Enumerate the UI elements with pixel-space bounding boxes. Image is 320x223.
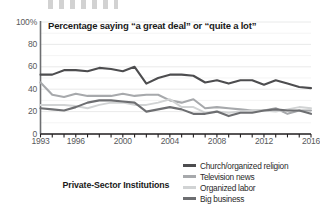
chart-caption: Private-Sector Institutions — [46, 180, 186, 190]
x-axis-tick-label: 2008 — [208, 136, 226, 146]
legend-label: Big business — [200, 194, 244, 204]
chart-title: Percentage saying “a great deal” or “qui… — [48, 20, 256, 31]
y-axis-tick-label: 80 — [3, 40, 37, 49]
legend-item[interactable]: Church/organized religion — [183, 160, 320, 171]
chart-figure: 100%806040200 19931996200020042008201220… — [0, 0, 320, 223]
y-axis-tick-label: 100% — [3, 18, 37, 27]
y-axis-tick-label: 20 — [3, 107, 37, 116]
legend-swatch-icon — [183, 186, 196, 188]
legend-label: Organized labor — [200, 183, 255, 193]
legend-label: Church/organized religion — [200, 161, 288, 171]
legend-item[interactable]: Organized labor — [183, 182, 320, 193]
x-axis-tick-label: 2004 — [161, 136, 179, 146]
legend-item[interactable]: Television news — [183, 171, 320, 182]
chart-legend: Church/organized religionTelevision news… — [183, 160, 320, 204]
x-axis-labels: 1993199620002004200820122016 — [0, 136, 320, 150]
legend-swatch-icon — [183, 197, 196, 199]
legend-swatch-icon — [183, 175, 196, 177]
legend-swatch-icon — [183, 164, 196, 166]
legend-label: Television news — [200, 172, 254, 182]
x-axis-tick-label: 1993 — [31, 136, 49, 146]
y-axis-tick-label: 40 — [3, 85, 37, 94]
x-axis-tick-label: 2012 — [255, 136, 273, 146]
y-axis-tick-label: 60 — [3, 62, 37, 71]
x-axis-tick-label: 2000 — [114, 136, 132, 146]
cropped-text-artifact — [48, 0, 118, 9]
y-axis-labels: 100%806040200 — [0, 0, 37, 223]
x-axis-tick-label: 2016 — [302, 136, 320, 146]
legend-item[interactable]: Big business — [183, 193, 320, 204]
x-axis-tick-label: 1996 — [67, 136, 85, 146]
